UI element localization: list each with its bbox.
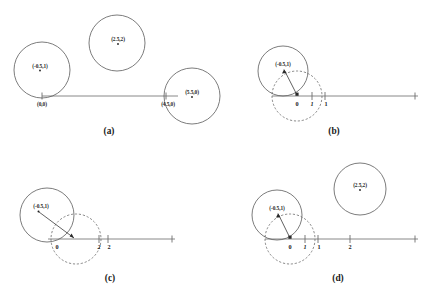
panel-b-vector bbox=[284, 70, 297, 96]
figure-container: (-0.5,1) (2.5,2) (5.5,0) (0,0) (4.5,0) (… bbox=[0, 0, 430, 306]
panel-c-tick-label-1: 2 bbox=[96, 243, 100, 250]
panel-a-circle-1-center-dot bbox=[39, 70, 41, 72]
panel-c-tick-label-0: 0 bbox=[55, 243, 58, 250]
panel-d-tick-label-0: 0 bbox=[288, 243, 291, 250]
panel-a-circle-1-label: (-0.5,1) bbox=[32, 63, 48, 70]
panel-b-origin-marker bbox=[295, 93, 298, 96]
panel-d-tick-label-1: 1 bbox=[303, 243, 306, 250]
panel-d-circle-1-label: (-0.5,1) bbox=[269, 205, 285, 212]
panel-d-circle-2-center-dot bbox=[359, 189, 361, 191]
panel-d-tick-label-3: 2 bbox=[348, 243, 351, 250]
panel-d-solid-circle-1 bbox=[252, 190, 302, 240]
panel-c-solid-circle bbox=[20, 188, 74, 242]
panel-a-circle-3-label: (5.5,0) bbox=[185, 89, 199, 96]
panel-c-vector bbox=[39, 212, 74, 238]
panel-b-tick-label-0: 0 bbox=[295, 100, 298, 107]
panel-c: (-0.5,1) 0 2 2 (c) bbox=[20, 188, 175, 284]
panel-c-circle-center-dot bbox=[38, 211, 40, 213]
panel-b-tick-label-2: 1 bbox=[324, 100, 327, 107]
panel-a-circle-1 bbox=[14, 42, 70, 98]
panel-b-circle-label: (-0.5,1) bbox=[275, 61, 291, 68]
panel-b-vector-arrowhead bbox=[282, 70, 287, 74]
panel-a-circle-3-center-dot bbox=[191, 96, 193, 98]
panel-d-circle-2-label: (2.5,2) bbox=[353, 182, 367, 189]
panel-a-circle-2-label: (2.5,2) bbox=[111, 36, 125, 43]
panel-d-solid-circle-2 bbox=[334, 163, 386, 215]
panel-d-origin-marker bbox=[288, 236, 291, 239]
panel-c-tick-label-2: 2 bbox=[107, 243, 110, 250]
panel-b: (-0.5,1) 0 1 1 (b) bbox=[258, 46, 418, 137]
panel-a-circle-2-center-dot bbox=[117, 43, 119, 45]
panel-a-point-label: (4.5,0) bbox=[161, 101, 175, 108]
panel-b-caption: (b) bbox=[328, 126, 339, 137]
panel-c-circle-label: (-0.5,1) bbox=[33, 203, 49, 210]
panel-a-circle-2 bbox=[89, 15, 145, 71]
panel-d-caption: (d) bbox=[332, 273, 343, 284]
panel-a: (-0.5,1) (2.5,2) (5.5,0) (0,0) (4.5,0) (… bbox=[14, 15, 220, 137]
panel-d-vector-arrowhead bbox=[276, 214, 281, 218]
panel-d: (-0.5,1) (2.5,2) 0 1 1 2 (d) bbox=[252, 163, 418, 284]
panel-a-origin-label: (0,0) bbox=[37, 101, 47, 108]
panel-c-vector-arrowhead bbox=[70, 233, 74, 238]
panel-c-caption: (c) bbox=[105, 273, 115, 284]
panel-b-tick-label-1: 1 bbox=[310, 100, 313, 107]
panel-d-tick-label-2: 1 bbox=[317, 243, 320, 250]
panel-a-caption: (a) bbox=[104, 126, 115, 137]
